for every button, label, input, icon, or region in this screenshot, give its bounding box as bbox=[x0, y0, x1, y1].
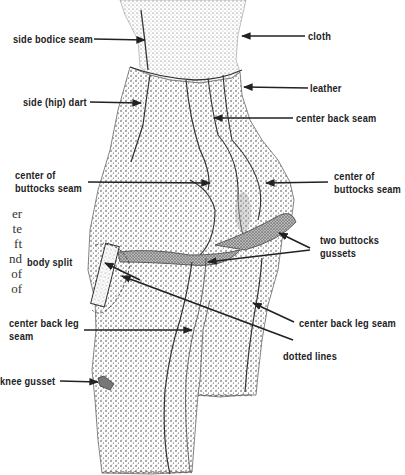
label-center-back-leg-seam-left: center back leg seam bbox=[9, 317, 79, 343]
label-line: center of bbox=[334, 170, 375, 182]
cropped-body-text: er te ft nd of of bbox=[0, 206, 22, 296]
label-cloth: cloth bbox=[308, 30, 331, 43]
label-line: seam bbox=[9, 330, 33, 342]
label-line: center back leg bbox=[9, 317, 79, 329]
label-line: two buttocks bbox=[320, 234, 379, 246]
text-fragment: of bbox=[0, 281, 22, 296]
label-center-back-seam: center back seam bbox=[296, 112, 376, 125]
text-fragment: nd bbox=[0, 251, 22, 266]
label-leather: leather bbox=[310, 82, 342, 95]
label-body-split: body split bbox=[27, 256, 72, 269]
label-knee-gusset: knee gusset bbox=[0, 375, 55, 388]
label-line: center of bbox=[15, 169, 56, 181]
text-fragment: ft bbox=[0, 236, 22, 251]
label-center-of-buttocks-seam-left: center of buttocks seam bbox=[15, 169, 82, 195]
text-fragment: of bbox=[0, 266, 22, 281]
label-center-back-leg-seam-right: center back leg seam bbox=[299, 317, 396, 330]
diagram-figure: side bodice seam cloth leather side (hip… bbox=[0, 0, 405, 475]
label-line: buttocks seam bbox=[15, 182, 82, 194]
label-line: buttocks seam bbox=[334, 183, 401, 195]
label-side-bodice-seam: side bodice seam bbox=[13, 33, 93, 46]
label-line: gussets bbox=[320, 247, 356, 259]
label-dotted-lines: dotted lines bbox=[283, 350, 337, 363]
text-fragment: te bbox=[0, 221, 22, 236]
label-two-buttocks-gussets: two buttocks gussets bbox=[320, 234, 379, 260]
label-side-hip-dart: side (hip) dart bbox=[23, 96, 87, 109]
text-fragment: er bbox=[0, 206, 22, 221]
label-center-of-buttocks-seam-right: center of buttocks seam bbox=[334, 170, 401, 196]
